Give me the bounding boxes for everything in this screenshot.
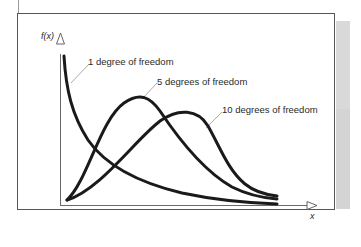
y-axis-label: f(x): [41, 32, 54, 41]
label-10-degrees: 10 degrees of freedom: [222, 105, 318, 115]
chi-square-chart: [0, 0, 361, 247]
x-axis-label: x: [310, 212, 315, 221]
label-1-degree: 1 degree of freedom: [88, 57, 174, 67]
label-5-degrees: 5 degrees of freedom: [157, 77, 247, 87]
